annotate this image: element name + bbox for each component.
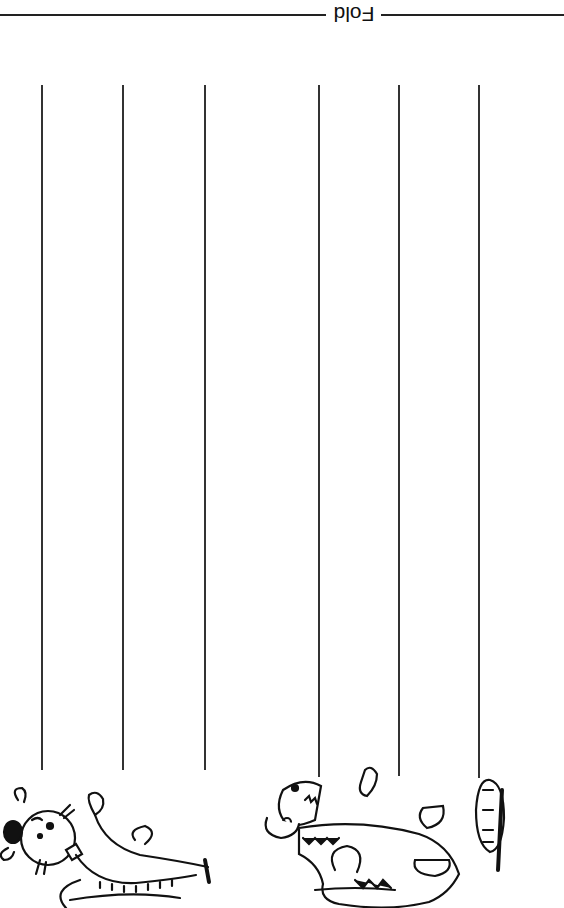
writing-line-2	[122, 85, 124, 770]
tiger-cat-illustration	[0, 760, 220, 908]
writing-line-1	[41, 85, 43, 770]
writing-line-5	[398, 85, 400, 776]
fold-line-left	[0, 14, 326, 16]
dinosaur-skateboard-illustration	[255, 760, 515, 908]
writing-line-3	[204, 85, 206, 770]
fold-line-right	[381, 14, 564, 16]
writing-line-6	[478, 85, 480, 778]
writing-line-4	[318, 85, 320, 777]
fold-label: Fold	[331, 2, 377, 26]
